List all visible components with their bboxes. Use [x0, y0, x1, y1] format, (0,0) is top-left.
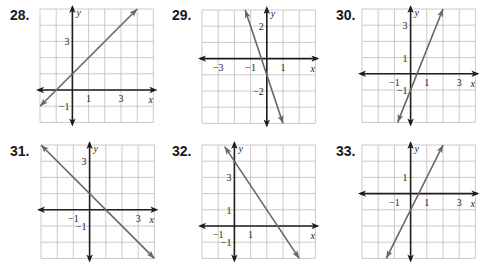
arrowhead-icon — [437, 9, 443, 18]
grid-lines — [202, 10, 315, 123]
y-tick-label: 3 — [64, 36, 69, 47]
arrowhead-icon — [69, 118, 75, 126]
axes — [36, 5, 157, 126]
x-tick-label: 3 — [457, 77, 462, 88]
arrowhead-icon — [198, 223, 206, 229]
x-axis-label: x — [147, 94, 153, 105]
arrowhead-icon — [407, 141, 413, 149]
arrowhead-icon — [264, 119, 270, 127]
arrowhead-icon — [40, 98, 48, 106]
x-axis-label: x — [309, 230, 315, 241]
axes — [358, 5, 479, 126]
arrowhead-icon — [86, 141, 92, 149]
y-tick-label: 1 — [403, 172, 408, 183]
grid-lines — [202, 145, 315, 258]
grid-lines — [362, 145, 475, 258]
x-tick-label: 1 — [86, 93, 91, 104]
arrowhead-icon — [292, 250, 299, 258]
x-axis-label: x — [309, 63, 315, 74]
x-tick-label: −3 — [213, 62, 224, 73]
y-axis-label: y — [414, 7, 420, 18]
arrowhead-icon — [471, 190, 479, 196]
arrowhead-icon — [41, 145, 49, 153]
y-tick-label: −1 — [397, 85, 408, 96]
x-tick-label: 3 — [136, 213, 141, 224]
arrowhead-icon — [36, 87, 44, 93]
arrowhead-icon — [278, 115, 284, 124]
y-tick-label: −2 — [253, 86, 264, 97]
x-tick-label: 1 — [281, 62, 286, 73]
arrowhead-icon — [311, 55, 319, 61]
axes — [198, 141, 319, 262]
arrowhead-icon — [358, 71, 366, 77]
coordinate-grid: xy−133−1 — [0, 0, 489, 274]
y-tick-label: −1 — [59, 101, 70, 112]
arrowhead-icon — [86, 254, 92, 262]
coordinate-grid: xy133−1 — [0, 0, 489, 274]
arrowhead-icon — [231, 141, 237, 149]
y-tick-label: −1 — [221, 237, 232, 248]
plotted-line — [225, 147, 300, 259]
y-tick-label: 3 — [403, 20, 408, 31]
arrowhead-icon — [37, 207, 45, 213]
arrowhead-icon — [225, 147, 232, 155]
arrowhead-icon — [149, 87, 157, 93]
arrowhead-icon — [198, 55, 206, 61]
arrowhead-icon — [407, 5, 413, 13]
x-axis-label: x — [469, 198, 475, 209]
axes — [198, 6, 319, 127]
y-tick-label: 1 — [226, 205, 231, 216]
x-tick-label: 3 — [119, 93, 124, 104]
y-axis-label: y — [270, 8, 276, 19]
plotted-line — [386, 145, 443, 258]
plotted-line — [398, 9, 443, 122]
y-axis-label: y — [75, 7, 81, 18]
x-tick-label: −1 — [213, 229, 224, 240]
exercise-number: 28. — [10, 7, 29, 23]
x-tick-label: 1 — [424, 197, 429, 208]
x-axis-label: x — [148, 214, 154, 225]
coordinate-grid: xy−11331−1 — [0, 0, 489, 274]
grid-lines — [41, 145, 154, 258]
x-tick-label: 3 — [457, 197, 462, 208]
x-tick-label: −1 — [68, 213, 79, 224]
grid-lines — [40, 9, 153, 122]
arrowhead-icon — [245, 10, 251, 19]
arrowhead-icon — [311, 223, 319, 229]
x-tick-label: −1 — [389, 77, 400, 88]
exercise-number: 33. — [336, 143, 355, 159]
arrowhead-icon — [358, 190, 366, 196]
arrowhead-icon — [407, 118, 413, 126]
exercise-number: 29. — [172, 7, 191, 23]
arrowhead-icon — [150, 207, 158, 213]
coordinate-grid: xy−3−112−2 — [0, 0, 489, 274]
x-tick-label: 1 — [248, 229, 253, 240]
exercise-number: 31. — [10, 143, 29, 159]
plotted-line — [40, 9, 137, 106]
x-tick-label: −1 — [389, 197, 400, 208]
y-axis-label: y — [93, 143, 99, 154]
exercise-number: 30. — [336, 7, 355, 23]
arrowhead-icon — [437, 145, 443, 153]
y-tick-label: 3 — [82, 156, 87, 167]
y-tick-label: −1 — [76, 221, 87, 232]
grid-lines — [362, 9, 475, 122]
arrowhead-icon — [147, 251, 155, 259]
arrowhead-icon — [471, 71, 479, 77]
arrowhead-icon — [69, 5, 75, 13]
y-tick-label: 1 — [403, 53, 408, 64]
arrowhead-icon — [129, 9, 137, 17]
arrowhead-icon — [407, 254, 413, 262]
y-tick-label: 2 — [259, 21, 264, 32]
coordinate-grid: xy−1131 — [0, 0, 489, 274]
exercise-number: 32. — [172, 143, 191, 159]
x-tick-label: −1 — [245, 62, 256, 73]
axes — [37, 141, 158, 262]
y-tick-label: 3 — [226, 172, 231, 183]
y-axis-label: y — [414, 143, 420, 154]
arrowhead-icon — [231, 254, 237, 262]
x-tick-label: 1 — [424, 77, 429, 88]
axes — [358, 141, 479, 262]
plotted-line — [41, 145, 154, 258]
arrowhead-icon — [398, 114, 404, 123]
